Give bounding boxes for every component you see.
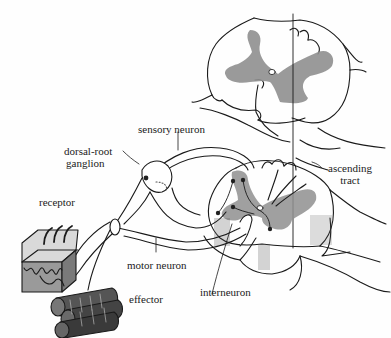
label-ascending-tract-line2: tract xyxy=(322,174,378,186)
label-sensory-neuron: sensory neuron xyxy=(138,123,205,135)
label-ascending-tract-line1: ascending xyxy=(322,162,378,174)
receptor-skin xyxy=(22,226,78,292)
label-receptor: receptor xyxy=(39,196,75,208)
label-motor-neuron: motor neuron xyxy=(127,259,187,271)
label-effector: effector xyxy=(129,293,163,305)
label-dorsal-root-ganglion-line2: ganglion xyxy=(66,157,105,169)
reflex-arc-diagram: sensory neuron dorsal-root ganglion asce… xyxy=(0,0,391,338)
label-interneuron: interneuron xyxy=(200,286,251,298)
label-dorsal-root-ganglion-line1: dorsal-root xyxy=(64,145,112,157)
effector-muscle xyxy=(51,288,123,338)
